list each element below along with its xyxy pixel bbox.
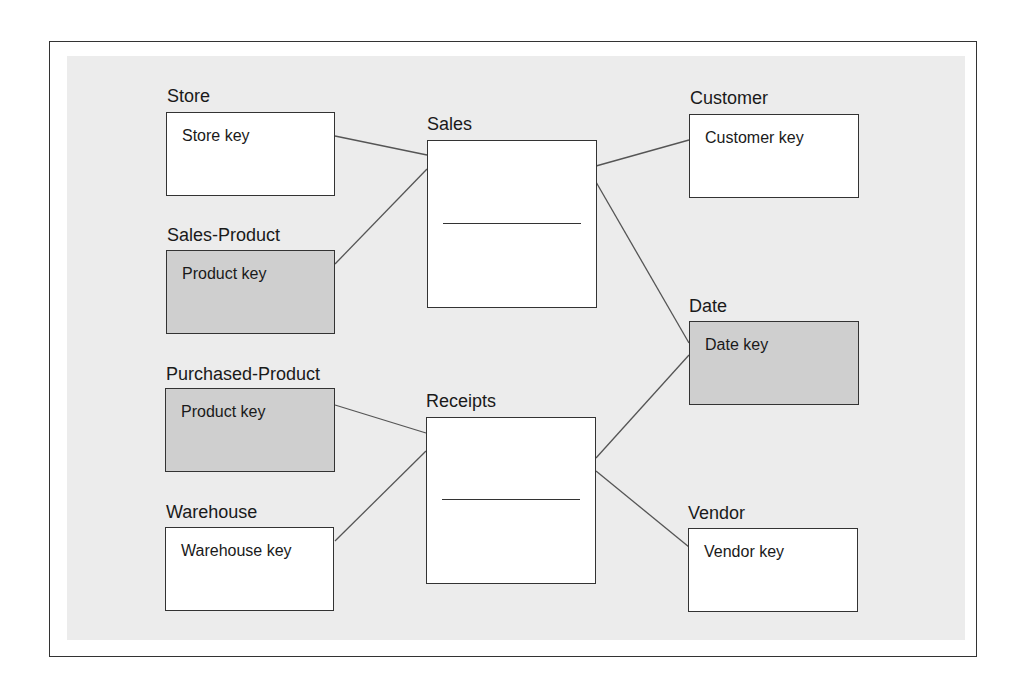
fact-divider-receipts	[442, 499, 580, 500]
key-field-warehouse: Warehouse key	[181, 542, 292, 560]
dimension-label-date: Date	[689, 296, 727, 316]
dimension-label-vendor: Vendor	[688, 503, 745, 523]
key-field-customer: Customer key	[705, 129, 804, 147]
key-field-date: Date key	[705, 336, 768, 354]
dimension-box-customer: Customer key	[689, 114, 859, 198]
dimension-label-store: Store	[167, 86, 210, 106]
fact-box-receipts	[426, 417, 596, 584]
fact-divider-sales	[443, 223, 581, 224]
key-field-sales-product: Product key	[182, 265, 266, 283]
key-field-store: Store key	[182, 127, 250, 145]
fact-label-sales: Sales	[427, 114, 472, 134]
dimension-box-date: Date key	[689, 321, 859, 405]
dimension-label-sales-product: Sales-Product	[167, 225, 280, 245]
dimension-box-purchased-product: Product key	[165, 388, 335, 472]
fact-box-sales	[427, 140, 597, 308]
fact-label-receipts: Receipts	[426, 391, 496, 411]
dimension-label-customer: Customer	[690, 88, 768, 108]
key-field-vendor: Vendor key	[704, 543, 784, 561]
dimension-box-sales-product: Product key	[166, 250, 335, 334]
key-field-purchased-product: Product key	[181, 403, 265, 421]
dimension-box-warehouse: Warehouse key	[165, 527, 334, 611]
dimension-box-vendor: Vendor key	[688, 528, 858, 612]
dimension-label-warehouse: Warehouse	[166, 502, 257, 522]
dimension-box-store: Store key	[166, 112, 335, 196]
dimension-label-purchased-product: Purchased-Product	[166, 364, 320, 384]
